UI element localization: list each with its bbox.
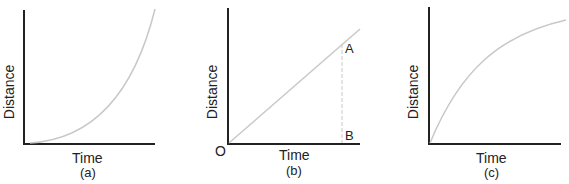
panel-c-ylabel: Distance [405,63,421,121]
panel-c-curve [430,20,566,143]
panel-c [428,7,566,144]
panel-b-ylabel: Distance [204,63,220,121]
panel-a-curve [30,9,155,143]
panel-a-xlabel: Time [72,150,103,166]
panel-c-xlabel: Time [476,150,507,166]
panel-b-caption: (b) [286,163,302,178]
panel-a-ylabel: Distance [1,63,17,121]
panel-b-point-a: A [345,41,354,56]
panel-a [23,9,155,144]
panel-b [227,8,360,144]
panel-b-origin-label: O [215,143,226,159]
panel-b-line [229,29,360,143]
panel-b-xlabel: Time [279,147,310,163]
panel-c-caption: (c) [484,165,499,180]
panel-b-point-b: B [345,128,354,143]
panel-a-caption: (a) [80,165,96,180]
